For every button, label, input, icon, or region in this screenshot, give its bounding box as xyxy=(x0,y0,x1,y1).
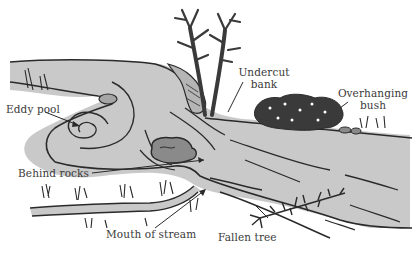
label-overhanging-bush-line1: Overhanging xyxy=(333,88,413,99)
peninsula-rock xyxy=(99,94,117,104)
diagram-artwork xyxy=(0,0,419,255)
overhanging-bush xyxy=(254,94,343,130)
stream-habitat-diagram: Eddy pool Undercut bank Overhanging bush… xyxy=(0,0,419,255)
label-mouth-of-stream: Mouth of stream xyxy=(106,229,196,240)
label-undercut-bank-line2: bank xyxy=(234,79,294,90)
label-fallen-tree: Fallen tree xyxy=(218,232,277,243)
label-eddy-pool: Eddy pool xyxy=(6,104,60,115)
label-behind-rocks: Behind rocks xyxy=(18,168,89,179)
label-undercut-bank-line1: Undercut xyxy=(234,67,294,78)
label-overhanging-bush-line2: bush xyxy=(333,100,413,111)
